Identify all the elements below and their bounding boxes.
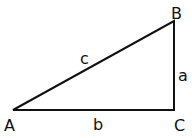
side-label-b: b (93, 115, 103, 134)
triangle-diagram: B C A a b c (0, 0, 192, 138)
vertex-label-b: B (171, 4, 182, 23)
triangle-shape (13, 21, 174, 110)
vertex-label-c: C (174, 116, 185, 135)
side-label-a: a (178, 66, 188, 85)
vertex-label-a: A (4, 116, 15, 135)
side-label-c: c (80, 49, 89, 68)
